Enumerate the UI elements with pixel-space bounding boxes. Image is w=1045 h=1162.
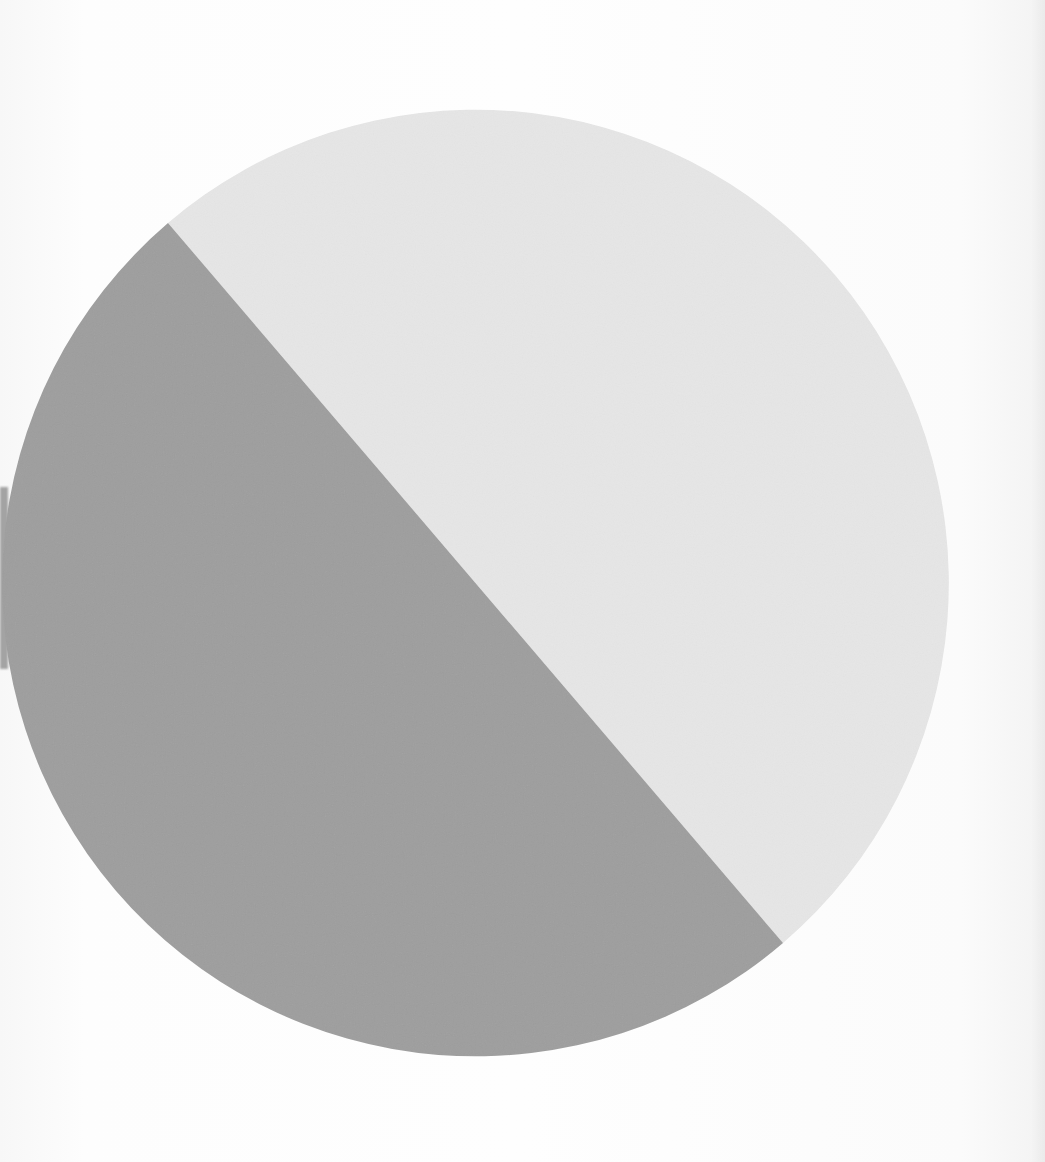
scanned-page: Slice A (dark gray, lower-left) 49 Slice… — [0, 0, 1045, 1162]
pie-chart — [0, 0, 1045, 1162]
